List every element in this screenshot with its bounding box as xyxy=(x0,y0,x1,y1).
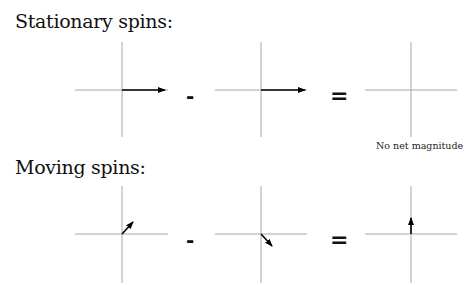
minus-operator-top: - xyxy=(186,84,194,108)
moving-axes-1 xyxy=(75,186,168,283)
equals-operator-top: = xyxy=(330,83,348,108)
moving-axes-result xyxy=(365,186,457,283)
moving-spin-2-arrow-icon xyxy=(261,234,272,246)
no-net-magnitude-caption: No net magnitude xyxy=(376,140,463,151)
stationary-axes-result xyxy=(365,42,457,137)
moving-spin-1-arrow-icon xyxy=(122,222,133,234)
equals-operator-bottom: = xyxy=(330,227,348,252)
minus-operator-bottom: - xyxy=(186,228,194,252)
